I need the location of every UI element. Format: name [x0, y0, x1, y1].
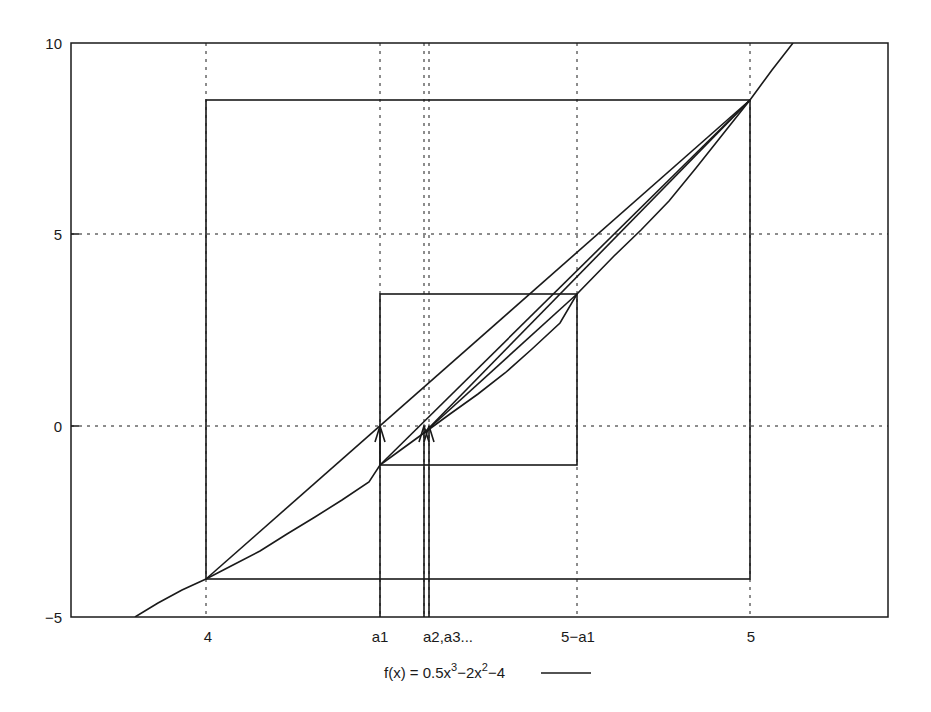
y-tick-label-5: 5 [54, 226, 62, 243]
secant-line-4 [424, 100, 750, 433]
y-tick-label-10: 10 [45, 35, 62, 52]
x-tick-label-4: 4 [204, 628, 212, 645]
secant-line-3 [424, 294, 577, 433]
legend-label: f(x) = 0.5x3−2x2−4 [384, 661, 505, 681]
legend: f(x) = 0.5x3−2x2−4 [384, 661, 591, 681]
x-tick-label-5-minus-a1: 5−a1 [561, 628, 595, 645]
inner-box [380, 294, 577, 465]
grid [71, 43, 888, 617]
x-tick-label-a2-a3: a2,a3... [423, 628, 473, 645]
secant-line-2 [380, 100, 750, 465]
plot-frame [71, 43, 888, 617]
x-tick-label-5: 5 [747, 628, 755, 645]
y-ticks [71, 234, 79, 426]
y-tick-label-0: 0 [54, 418, 62, 435]
x-tick-label-a1: a1 [372, 628, 389, 645]
y-tick-label-neg5: −5 [45, 609, 62, 626]
chart: 10 5 0 −5 4 a1 a2,a3... 5−a1 5 f(x) = 0.… [0, 0, 931, 712]
secant-line-1 [206, 100, 750, 579]
function-curve [135, 43, 793, 617]
